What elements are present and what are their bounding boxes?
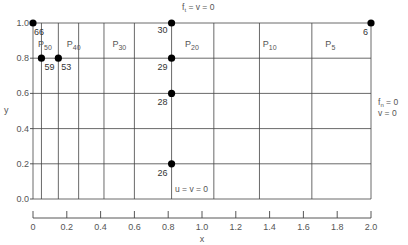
x-tick-label: 0.4 [94, 222, 107, 232]
region-label: P30 [112, 39, 126, 51]
mesh-chart: 0.00.20.40.60.81.000.20.40.60.81.01.21.4… [0, 0, 408, 245]
y-tick-label: 0.2 [16, 159, 29, 169]
x-tick-label: 0.8 [162, 222, 175, 232]
x-tick-label: 0 [30, 222, 35, 232]
y-tick-label: 1.0 [16, 18, 29, 28]
node-point [38, 55, 45, 62]
node-point [55, 55, 62, 62]
node-point [29, 19, 36, 26]
node-label: 53 [61, 62, 71, 72]
node-point [168, 55, 175, 62]
node-label: 30 [158, 25, 168, 35]
x-tick-label: 2.0 [365, 222, 378, 232]
bottom-boundary-annotation: u = v = 0 [175, 184, 208, 194]
node-label: 26 [158, 168, 168, 178]
x-tick-label: 0.6 [128, 222, 141, 232]
y-tick-label: 0.0 [16, 194, 29, 204]
right-boundary-annotation-line1: fn = 0 [378, 97, 398, 108]
x-tick-label: 1.4 [263, 222, 276, 232]
x-tick-label: 0.2 [61, 222, 74, 232]
node-label: 29 [158, 62, 168, 72]
grid-layer [33, 23, 371, 199]
node-label: 66 [34, 27, 44, 37]
label-layer: P50P40P30P20P10P5 [38, 39, 335, 51]
node-point [168, 90, 175, 97]
node-point [168, 160, 175, 167]
node-label: 6 [363, 27, 368, 37]
x-tick-label: 1.6 [297, 222, 310, 232]
node-point [367, 19, 374, 26]
point-layer: 665953302928266 [29, 19, 374, 177]
region-label: P50 [38, 39, 52, 51]
node-label: 59 [44, 62, 54, 72]
top-boundary-annotation: ft = v = 0 [182, 2, 215, 13]
x-tick-label: 1.2 [230, 222, 243, 232]
y-tick-label: 0.6 [16, 88, 29, 98]
region-label: P10 [263, 39, 277, 51]
region-label: P5 [325, 39, 335, 51]
x-tick-label: 1.0 [196, 222, 209, 232]
node-label: 28 [158, 97, 168, 107]
y-tick-label: 0.8 [16, 53, 29, 63]
region-label: P20 [185, 39, 199, 51]
x-tick-label: 1.8 [331, 222, 344, 232]
y-tick-label: 0.4 [16, 124, 29, 134]
node-point [168, 19, 175, 26]
right-boundary-annotation-line2: v = 0 [378, 108, 397, 118]
y-axis-title: y [4, 105, 9, 115]
x-axis-title: x [200, 234, 205, 244]
